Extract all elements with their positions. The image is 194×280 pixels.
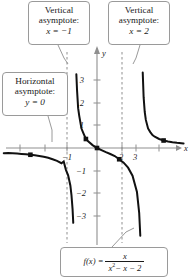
y-tick-label-3: 3: [79, 75, 84, 85]
data-point-marker: [117, 157, 122, 162]
y-axis-label: y: [101, 48, 106, 58]
data-point-marker: [95, 146, 100, 151]
y-tick-label--2: −2: [76, 188, 87, 198]
tail-horizontal: [48, 116, 52, 142]
data-point-marker: [84, 137, 89, 142]
callout-line-3: x = −1: [29, 26, 89, 36]
y-tick-label--3: −3: [76, 211, 86, 221]
data-point-marker: [161, 138, 166, 143]
callout-line-1: Vertical: [29, 5, 89, 15]
callout-horizontal-asymptote: Horizontal asymptote: y = 0: [2, 72, 68, 116]
x-tick-label-3: 3: [132, 152, 137, 162]
callout-line-3: y = 0: [3, 97, 67, 107]
equation-lhs: f(x) =: [84, 257, 104, 267]
curve-right-branch: [143, 73, 184, 144]
x-axis-arrow: [176, 145, 182, 151]
callout-vertical-asymptote-right: Vertical asymptote: x = 2: [108, 1, 170, 45]
equation-fraction: x x2− x − 2: [105, 252, 144, 273]
equation-denominator-rest: − x − 2: [115, 262, 141, 272]
callout-line-2: asymptote:: [109, 15, 169, 25]
callout-function-equation: f(x) = x x2− x − 2: [60, 247, 168, 277]
equation-numerator: x: [120, 252, 130, 261]
y-axis-arrow: [94, 46, 100, 54]
y-tick-label-2: 2: [80, 98, 85, 108]
callout-vertical-asymptote-left: Vertical asymptote: x = −1: [28, 1, 90, 45]
tail-vertical-right: [133, 45, 140, 64]
callout-line-2: asymptote:: [29, 15, 89, 25]
equation-denominator: x2− x − 2: [105, 261, 144, 273]
x-axis-label: x: [183, 143, 188, 153]
tick-labels-group: −1 2 3 3 2 1 −1 −2 −3 x y: [62, 48, 188, 221]
tail-equation: [112, 228, 134, 247]
callout-line-2: asymptote:: [3, 86, 67, 96]
curve-left-branch: [4, 153, 73, 223]
callout-line-1: Vertical: [109, 5, 169, 15]
data-point-marker: [28, 152, 33, 157]
callout-line-1: Horizontal: [3, 76, 67, 86]
y-tick-label--1: −1: [76, 166, 86, 176]
callout-line-3: x = 2: [109, 26, 169, 36]
